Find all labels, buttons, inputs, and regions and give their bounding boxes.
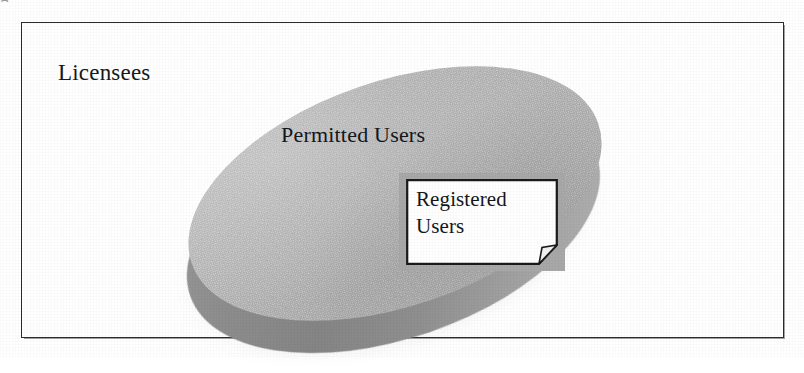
registered-users-label: Registered Users [416,186,544,240]
licensees-frame: Licensees Permitted Users Registered Use… [21,22,784,338]
note-label-line-1: Registered [416,186,544,213]
clipped-text-above-figure: g [0,0,804,2]
licensees-label: Licensees [58,61,150,84]
registered-users-note: Registered Users [399,173,565,271]
note-label-line-2: Users [416,213,544,240]
permitted-users-label: Permitted Users [281,124,425,146]
